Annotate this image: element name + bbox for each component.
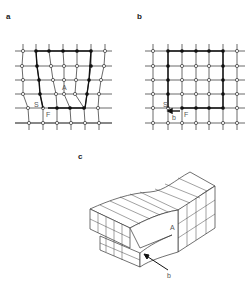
panel-b-burgers-vector: b bbox=[172, 114, 176, 121]
diagram-canvas: A S F S F b bbox=[0, 0, 251, 282]
panel-b-marker-S: S bbox=[163, 101, 168, 108]
panel-b-marker-F: F bbox=[184, 111, 188, 118]
panel-b-burgers-circuit bbox=[168, 51, 223, 113]
panel-c-marker-A: A bbox=[170, 224, 175, 231]
panel-a-marker-A: A bbox=[62, 84, 67, 91]
panel-b-nodes bbox=[151, 49, 238, 124]
panel-a-marker-F: F bbox=[46, 111, 50, 118]
panel-a-marker-S: S bbox=[34, 101, 39, 108]
panel-c-burgers-label: b bbox=[167, 272, 171, 279]
panel-b-lattice bbox=[145, 44, 245, 130]
